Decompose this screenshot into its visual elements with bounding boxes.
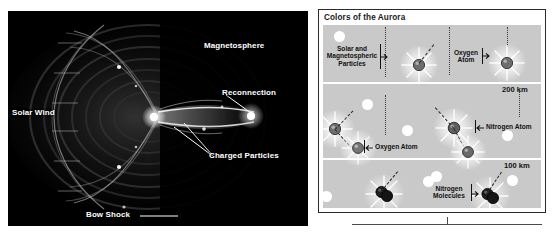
callout-solar-particles: Solar and Magnetospheric Particles	[325, 45, 379, 67]
callout-line-2: Magnetospheric	[325, 52, 379, 59]
particle-stream	[385, 95, 386, 135]
arrow-right-icon	[380, 53, 388, 61]
callout-oxygen-atom-top: Oxygen Atom	[451, 49, 481, 64]
particle-stream	[385, 27, 386, 77]
particle-stream	[519, 91, 520, 117]
label-magnetosphere: Magnetosphere	[204, 42, 264, 50]
colors-of-the-aurora-panel: Colors of the Aurora	[318, 9, 546, 213]
callout-line-2: Molecules	[428, 192, 470, 199]
magnetosphere-panel: Magnetosphere Solar Wind Reconnection Ch…	[8, 11, 308, 226]
label-reconnection: Reconnection	[222, 89, 276, 97]
callout-line-1: Oxygen Atom	[375, 143, 418, 150]
scale-bracket	[352, 217, 542, 231]
callout-line-1: Oxygen	[451, 49, 481, 56]
arrow-left-icon	[475, 124, 484, 132]
callout-line-1: Nitrogen	[428, 185, 470, 192]
label-solar-wind: Solar Wind	[12, 109, 55, 117]
arrow-left-icon	[364, 144, 373, 152]
particle-dot	[334, 31, 345, 42]
molecule-rays	[363, 173, 405, 208]
callout-line-1: Solar and	[325, 45, 379, 52]
arrow-right-icon	[482, 52, 490, 60]
callout-rule	[475, 120, 476, 133]
atmosphere-bands: Solar and Magnetospheric Particles Oxyge…	[323, 25, 541, 208]
callout-nitrogen-atom: Nitrogen Atom	[486, 123, 532, 130]
magnetosphere-artwork: Magnetosphere Solar Wind Reconnection Ch…	[8, 11, 308, 226]
atom-rays	[487, 43, 527, 83]
particle-dot	[431, 171, 442, 182]
label-bow-shock: Bow Shock	[86, 211, 130, 219]
callout-rule	[364, 140, 365, 153]
particle-dot	[323, 191, 332, 202]
panel-title: Colors of the Aurora	[324, 13, 405, 22]
callout-line-2: Atom	[451, 56, 481, 63]
particle-dot	[502, 130, 513, 141]
altitude-label-100km: 100 km	[503, 161, 531, 170]
label-charged-particles: Charged Particles	[209, 152, 279, 160]
arrow-right-icon	[471, 190, 479, 198]
aurora-figure: Magnetosphere Solar Wind Reconnection Ch…	[0, 0, 554, 237]
callout-line-3: Particles	[325, 60, 379, 67]
callout-oxygen-atom-mid: Oxygen Atom	[375, 143, 418, 150]
particle-stream	[449, 27, 450, 75]
callout-line-1: Nitrogen Atom	[486, 123, 532, 130]
particle-dot	[402, 125, 413, 136]
altitude-label-200km: 200 km	[501, 85, 529, 94]
callout-nitrogen-molecules: Nitrogen Molecules	[428, 185, 470, 200]
particle-dot	[362, 99, 373, 110]
atom-rays	[399, 45, 439, 85]
atom-rays	[449, 133, 487, 171]
